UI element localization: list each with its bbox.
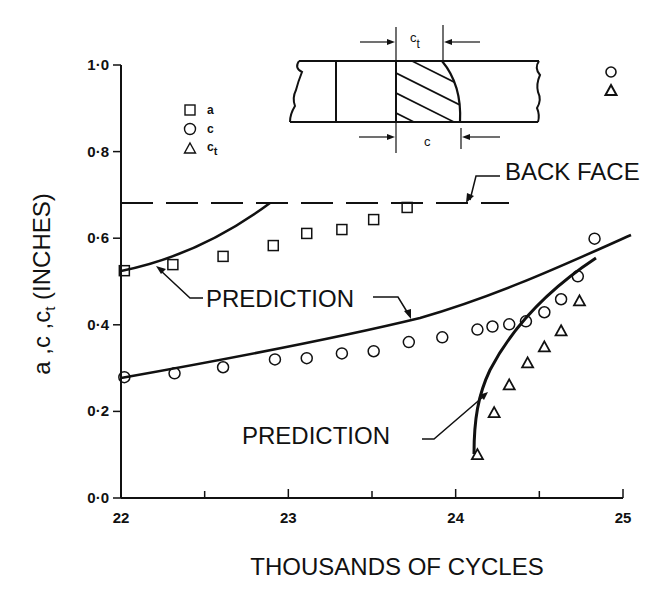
c-arrowhead-right — [462, 134, 470, 140]
data-point-ct — [522, 357, 533, 367]
inset-c-label: c — [424, 134, 431, 149]
legend-label-a: a — [207, 103, 214, 117]
y-tick-label: 1·0 — [87, 56, 109, 73]
series-ct-triangles — [472, 295, 585, 459]
data-point-c — [218, 362, 229, 373]
y-axis-title: a ,c ,ct (INCHES) — [28, 193, 58, 375]
plate-left-break — [290, 61, 302, 122]
data-point-ct — [556, 325, 567, 335]
legend-label-ct: ct — [207, 140, 218, 157]
data-point-ct — [574, 295, 585, 305]
y-tick-label: 0·0 — [87, 489, 109, 506]
x-ticks — [121, 489, 623, 498]
series-a-squares — [119, 202, 412, 275]
data-point-c — [368, 346, 379, 357]
crack-growth-chart: 0·00·20·40·60·81·0 22232425 a ,c ,ct (IN… — [0, 0, 665, 607]
y-tick-label: 0·4 — [87, 316, 109, 333]
legend-square-icon — [185, 105, 195, 115]
inset-ct-label: ct — [410, 30, 421, 51]
prediction-arrowhead-1a — [156, 266, 166, 274]
data-point-c — [539, 307, 550, 318]
crack-front-curve — [442, 61, 460, 122]
x-tick-labels: 22232425 — [113, 509, 632, 526]
prediction-label-1: PREDICTION — [206, 285, 354, 312]
data-point-a — [218, 251, 228, 261]
data-point-c — [487, 321, 498, 332]
prediction-label-2: PREDICTION — [242, 422, 390, 449]
y-ticks — [113, 65, 121, 498]
data-point-c — [269, 354, 280, 365]
x-tick-label: 25 — [615, 509, 632, 526]
data-point-c — [472, 324, 483, 335]
data-point-c — [437, 332, 448, 343]
data-point-a — [168, 260, 178, 270]
data-point-c — [556, 294, 567, 305]
data-point-c — [504, 319, 515, 330]
offscale-circle-marker — [606, 67, 616, 77]
data-point-a — [268, 241, 278, 251]
data-point-c — [301, 353, 312, 364]
inset-plate-diagram — [290, 25, 540, 170]
series-c-circles — [119, 233, 600, 383]
y-tick-labels: 0·00·20·40·60·81·0 — [87, 56, 109, 506]
ct-arrowhead-left — [387, 39, 395, 45]
x-axis-title: THOUSANDS OF CYCLES — [250, 553, 543, 580]
prediction-arrowhead-1b — [404, 309, 411, 319]
prediction-leader-1b — [373, 297, 409, 315]
data-point-ct — [504, 379, 515, 389]
x-tick-label: 24 — [447, 509, 464, 526]
legend-label-c: c — [207, 122, 214, 136]
back-face-label: BACK FACE — [505, 158, 640, 185]
x-tick-label: 22 — [113, 509, 130, 526]
data-point-a — [302, 228, 312, 238]
ct-arrowhead-right — [444, 39, 452, 45]
back-face-arrowhead — [466, 193, 474, 203]
plate-right-break — [537, 61, 540, 122]
y-tick-label: 0·8 — [87, 143, 109, 160]
data-point-ct — [489, 407, 500, 417]
y-tick-label: 0·6 — [87, 229, 109, 246]
legend-triangle-icon — [185, 143, 196, 153]
offscale-triangle-marker — [606, 85, 617, 95]
data-point-a — [337, 225, 347, 235]
prediction-curve-ct — [474, 258, 596, 454]
crack-hatching — [390, 50, 470, 170]
data-point-a — [369, 215, 379, 225]
data-point-ct — [539, 341, 550, 351]
data-point-c — [589, 233, 600, 244]
y-tick-label: 0·2 — [87, 402, 109, 419]
data-point-c — [403, 337, 414, 348]
c-arrowhead-left — [387, 134, 395, 140]
prediction-leader-1a — [160, 270, 203, 298]
prediction-curve-a — [121, 203, 270, 271]
data-point-c — [336, 348, 347, 359]
x-tick-label: 23 — [280, 509, 297, 526]
legend-circle-icon — [185, 124, 196, 135]
back-face-leader — [470, 176, 500, 200]
legend: a c ct — [185, 103, 218, 157]
